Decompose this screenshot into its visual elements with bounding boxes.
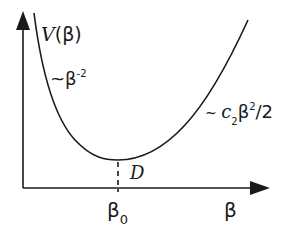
depth-label: D: [130, 164, 144, 182]
right-asymptote-label: ~ c2β2/2: [205, 103, 273, 125]
right-asymptote-coef-sub: 2: [231, 116, 237, 127]
left-asymptote-base: ~β: [50, 68, 77, 89]
left-asymptote-label: ~β-2: [50, 70, 87, 88]
y-axis-arrowhead-icon: [16, 11, 30, 30]
right-asymptote-var: β: [238, 101, 250, 122]
right-asymptote-coef: c: [221, 101, 231, 122]
y-label-close-paren: ): [74, 23, 81, 45]
right-asymptote-exponent: 2: [249, 101, 255, 112]
left-asymptote-exponent: -2: [77, 68, 87, 79]
minimum-position-label: β0: [107, 200, 128, 224]
right-asymptote-tilde: ~: [205, 105, 221, 121]
y-axis-label: V(β): [41, 25, 82, 44]
minimum-position-sub: 0: [120, 212, 128, 227]
x-axis-arrowhead-icon: [250, 181, 270, 195]
y-label-function: V: [41, 23, 55, 45]
x-axis-label: β: [224, 200, 237, 220]
right-asymptote-suffix: /2: [256, 101, 274, 122]
minimum-position-base: β: [107, 198, 120, 222]
potential-diagram: V(β) ~β-2 ~ c2β2/2 D β0 β: [0, 0, 289, 231]
y-label-variable: β: [62, 23, 74, 45]
